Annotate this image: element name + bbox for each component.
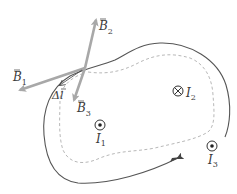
current-i3: I3 bbox=[207, 141, 218, 169]
svg-text:I2: I2 bbox=[185, 86, 196, 102]
svg-text:I1: I1 bbox=[95, 132, 106, 148]
label-b2: B2 bbox=[98, 19, 113, 36]
svg-text:I3: I3 bbox=[207, 153, 218, 169]
label-b3: B3 bbox=[76, 101, 91, 118]
current-i2: I2 bbox=[173, 86, 196, 102]
label-delta-l: Δl bbox=[51, 89, 64, 102]
vector-b1 bbox=[20, 68, 85, 90]
loop-direction-arrow bbox=[170, 157, 181, 162]
ampere-loop-diagram: B2 B1 B3 Δl I1 I2 I3 bbox=[0, 0, 237, 194]
vector-b2 bbox=[85, 20, 96, 68]
label-b1: B1 bbox=[12, 70, 27, 87]
current-i1: I1 bbox=[95, 120, 106, 148]
